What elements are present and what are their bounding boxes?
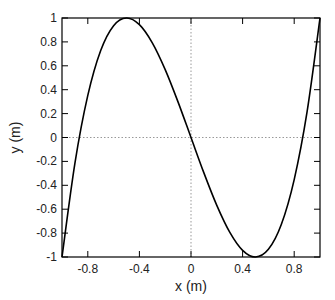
x-axis-label: x (m) bbox=[175, 278, 207, 294]
y-tick-label: 0 bbox=[50, 131, 57, 145]
x-axis-ticks: -0.8-0.400.40.8 bbox=[77, 18, 302, 276]
x-tick-label: -0.8 bbox=[77, 262, 98, 276]
line-chart: -0.8-0.400.40.8 -1-0.8-0.6-0.4-0.200.20.… bbox=[0, 0, 335, 300]
y-tick-label: -0.2 bbox=[36, 154, 57, 168]
x-tick-label: 0.8 bbox=[286, 262, 303, 276]
x-tick-label: 0.4 bbox=[234, 262, 251, 276]
y-tick-label: 0.4 bbox=[40, 83, 57, 97]
y-tick-label: -0.8 bbox=[36, 226, 57, 240]
y-tick-label: 1 bbox=[50, 11, 57, 25]
y-tick-label: -0.6 bbox=[36, 202, 57, 216]
x-tick-label: 0 bbox=[188, 262, 195, 276]
y-tick-label: -1 bbox=[46, 250, 57, 264]
x-tick-label: -0.4 bbox=[129, 262, 150, 276]
y-tick-label: 0.8 bbox=[40, 35, 57, 49]
y-tick-label: 0.2 bbox=[40, 107, 57, 121]
y-tick-label: -0.4 bbox=[36, 178, 57, 192]
y-axis-label: y (m) bbox=[7, 122, 23, 154]
y-tick-label: 0.6 bbox=[40, 59, 57, 73]
